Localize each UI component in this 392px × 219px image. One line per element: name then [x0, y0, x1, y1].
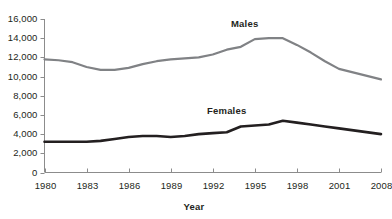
- x-tick-label: 1992: [203, 181, 225, 191]
- x-tick-label: 2008: [371, 181, 392, 191]
- x-tick-label: 1983: [77, 181, 99, 191]
- series-label-females: Females: [207, 106, 246, 116]
- x-tick-label: 1995: [245, 181, 267, 191]
- x-tick-label: 1998: [287, 181, 309, 191]
- series-label-males: Males: [231, 19, 258, 29]
- x-tick-label: 1980: [35, 181, 57, 191]
- x-tick-label: 1989: [161, 181, 183, 191]
- x-tick-label: 2001: [329, 181, 351, 191]
- x-axis-title: Year: [0, 201, 388, 212]
- x-tick-label: 1986: [119, 181, 141, 191]
